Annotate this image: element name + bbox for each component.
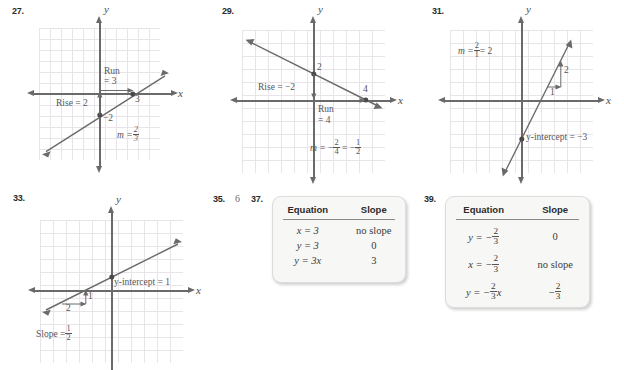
table-row: y = 3 0	[273, 238, 405, 253]
point-x-label-29: 4	[363, 85, 368, 95]
equation-cell-37-1: y = 3	[273, 238, 343, 253]
line-plot-33	[0, 185, 210, 370]
slope-prefix-29: m =	[310, 143, 326, 153]
run-label-33: 2	[66, 304, 71, 314]
problem-35-37: 35. 6 37. Equation Slope x = 3 no slope …	[210, 185, 420, 370]
slope-suffix-31: = 2	[480, 46, 492, 56]
line-plot-31	[420, 0, 624, 185]
problem-number-37: 37.	[251, 194, 263, 204]
slope-fraction-33: 12	[65, 325, 71, 343]
problem-number-39: 39.	[424, 194, 436, 204]
slope-fraction1-29: 24	[333, 139, 339, 157]
table-header-equation-37: Equation	[273, 197, 343, 219]
slope-cell-39-0: 0	[521, 223, 589, 250]
problem-31: 31. x y m =21= 2 2 1 y-intercept = −	[420, 0, 624, 185]
equation-suffix-39-2: x	[497, 287, 502, 298]
graph-29: x y 2 Rise = −2 4 Run = 4 m = −24 = −12	[210, 0, 420, 185]
table-row: y = −23 0	[446, 223, 589, 250]
equation-fraction-39-0: 23	[492, 227, 499, 246]
table-header-equation-39: Equation	[446, 197, 521, 219]
equation-cell-39-1: x = −23	[446, 250, 521, 277]
slope-denominator2-29: 2	[355, 148, 361, 156]
slope-cell-39-1: no slope	[521, 250, 589, 277]
run-label-line2-29: = 4	[318, 116, 330, 126]
problem-number-35: 35.	[213, 194, 225, 204]
answer-card-37: Equation Slope x = 3 no slope y = 3 0 y …	[272, 196, 406, 283]
slope-prefix-33: Slope =	[36, 329, 65, 339]
problem-27: 27. x y Run = 3 Rise = 2 3	[0, 0, 210, 185]
equation-cell-39-2: y = −23x	[446, 278, 521, 305]
slope-prefix-27: m =	[117, 130, 133, 140]
problem-33: 33. x y y-intercept = 1 1 2 Slope =12	[0, 185, 210, 370]
point-y-label-27: −2	[103, 114, 113, 124]
y-intercept-label-31: y-intercept = −3	[526, 133, 587, 143]
table-header-slope-37: Slope	[343, 197, 405, 219]
slope-equals-29: =	[342, 143, 347, 153]
slope-denominator-39-2: 3	[555, 292, 562, 301]
slope-table-37: Equation Slope x = 3 no slope y = 3 0 y …	[273, 197, 405, 268]
problem-39: 39. Equation Slope y = −23 0 x = −23 no …	[420, 185, 624, 370]
slope-cell-39-2: −23	[521, 278, 589, 305]
answer-card-39: Equation Slope y = −23 0 x = −23 no slop…	[445, 196, 590, 308]
slope-expression-29: m = −24 = −12	[310, 139, 361, 157]
run-label-line2-27: = 3	[104, 77, 116, 87]
equation-denominator-39-2: 3	[490, 292, 497, 301]
table-row: y = −23x −23	[446, 278, 589, 305]
rise-label-29: Rise = −2	[258, 83, 295, 93]
slope-table-39: Equation Slope y = −23 0 x = −23 no slop…	[446, 197, 589, 305]
rise-label-31: 2	[564, 66, 569, 76]
equation-prefix-39-0: y = −	[468, 232, 492, 243]
line-plot-27	[0, 0, 210, 185]
slope-cell-37-2: 3	[343, 253, 405, 268]
equation-denominator-39-0: 3	[492, 237, 499, 246]
rise-label-33: 1	[88, 292, 93, 302]
slope-expression-27: m =23	[117, 126, 139, 144]
slope-prefix-31: m =	[458, 46, 474, 56]
point-x-label-27: 3	[135, 95, 140, 105]
slope-cell-37-1: 0	[343, 238, 405, 253]
equation-denominator-39-1: 3	[492, 265, 499, 274]
table-header-row-37: Equation Slope	[273, 197, 405, 219]
graph-27: x y Run = 3 Rise = 2 3 −2 m =23	[0, 0, 210, 185]
y-intercept-label-33: y-intercept = 1	[114, 278, 170, 288]
slope-expression-33: Slope =12	[36, 325, 72, 343]
equation-prefix-39-1: x = −	[468, 259, 492, 270]
table-row: y = 3x 3	[273, 253, 405, 268]
slope-cell-37-0: no slope	[343, 223, 405, 238]
table-header-slope-39: Slope	[521, 197, 589, 219]
problem-35-answer: 6	[235, 193, 240, 204]
table-row: x = 3 no slope	[273, 223, 405, 238]
slope-fraction-27: 23	[133, 126, 139, 144]
table-row: x = −23 no slope	[446, 250, 589, 277]
equation-prefix-39-2: y = −	[466, 287, 490, 298]
graph-31: x y m =21= 2 2 1 y-intercept = −3	[420, 0, 624, 185]
run-label-line1-29: Run	[318, 105, 334, 115]
slope-denominator-33: 2	[65, 334, 71, 342]
run-label-31: 1	[550, 88, 555, 98]
line-plot-29	[210, 0, 420, 185]
equation-cell-39-0: y = −23	[446, 223, 521, 250]
equation-cell-37-0: x = 3	[273, 223, 343, 238]
slope-denominator-27: 3	[133, 135, 139, 143]
equation-fraction-39-1: 23	[492, 254, 499, 273]
problem-29: 29. x y 2 Rise = −2 4 Run = 4	[210, 0, 420, 185]
slope-denominator1-29: 4	[333, 148, 339, 156]
graph-33: x y y-intercept = 1 1 2 Slope =12	[0, 185, 210, 370]
rise-label-27: Rise = 2	[56, 99, 88, 109]
slope-fraction-39-2: 23	[555, 282, 562, 301]
equation-cell-37-2: y = 3x	[273, 253, 343, 268]
slope-expression-31: m =21= 2	[458, 42, 492, 60]
point-y-label-29: 2	[317, 63, 322, 73]
equation-fraction-39-2: 23	[490, 282, 497, 301]
slope-fraction2-29: 12	[355, 139, 361, 157]
table-header-row-39: Equation Slope	[446, 197, 589, 219]
